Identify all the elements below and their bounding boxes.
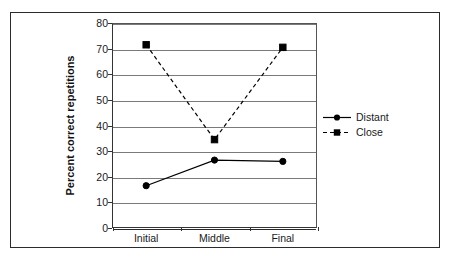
legend: DistantClose (322, 110, 402, 146)
data-point-close-initial (143, 42, 149, 48)
data-point-distant-initial (143, 183, 149, 189)
data-point-distant-final (280, 158, 286, 164)
legend-label: Distant (356, 111, 389, 124)
legend-label: Close (356, 126, 383, 139)
legend-item-distant[interactable]: Distant (322, 110, 402, 125)
x-tick-label-final: Final (271, 232, 294, 244)
x-tick-label-middle: Middle (199, 232, 230, 244)
y-tick-label: 10 (82, 197, 108, 208)
data-series-layer (112, 23, 317, 228)
series-line-distant (146, 160, 283, 186)
x-tick-label-initial: Initial (134, 232, 159, 244)
gridline-0 (113, 229, 316, 230)
y-axis-tick-labels: 01020304050607080 (80, 23, 108, 228)
x-tick-mark (318, 227, 319, 231)
y-tick-label: 80 (82, 18, 108, 29)
y-tick-label: 20 (82, 172, 108, 183)
x-axis-tick-labels: InitialMiddleFinal (112, 232, 317, 250)
square-marker (322, 125, 352, 140)
y-tick-label: 40 (82, 120, 108, 131)
y-axis-title: Percent correct repetitions (62, 23, 78, 228)
data-point-close-final (280, 44, 286, 50)
y-tick-label: 0 (82, 223, 108, 234)
circle-marker (322, 110, 352, 125)
y-tick-label: 70 (82, 43, 108, 54)
data-point-close-middle (211, 136, 217, 142)
data-point-distant-middle (211, 157, 217, 163)
y-tick-mark (108, 228, 112, 229)
y-tick-label: 30 (82, 146, 108, 157)
series-line-close (146, 45, 283, 140)
legend-item-close[interactable]: Close (322, 125, 402, 140)
y-tick-label: 60 (82, 69, 108, 80)
figure: Percent correct repetitions 010203040506… (0, 0, 457, 267)
y-tick-label: 50 (82, 95, 108, 106)
